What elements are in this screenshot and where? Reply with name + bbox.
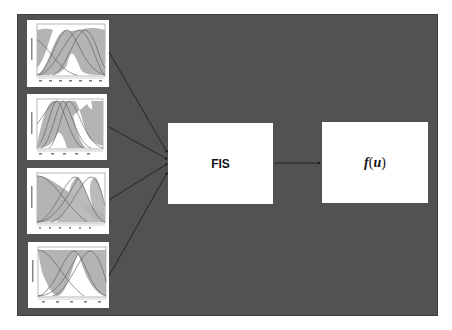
arrow-plot3-to-fis <box>109 164 167 200</box>
arrow-plot4-to-fis <box>109 173 167 276</box>
diagram-arrows <box>0 0 452 330</box>
arrow-plot2-to-fis <box>109 127 167 159</box>
arrow-plot1-to-fis <box>109 52 167 152</box>
